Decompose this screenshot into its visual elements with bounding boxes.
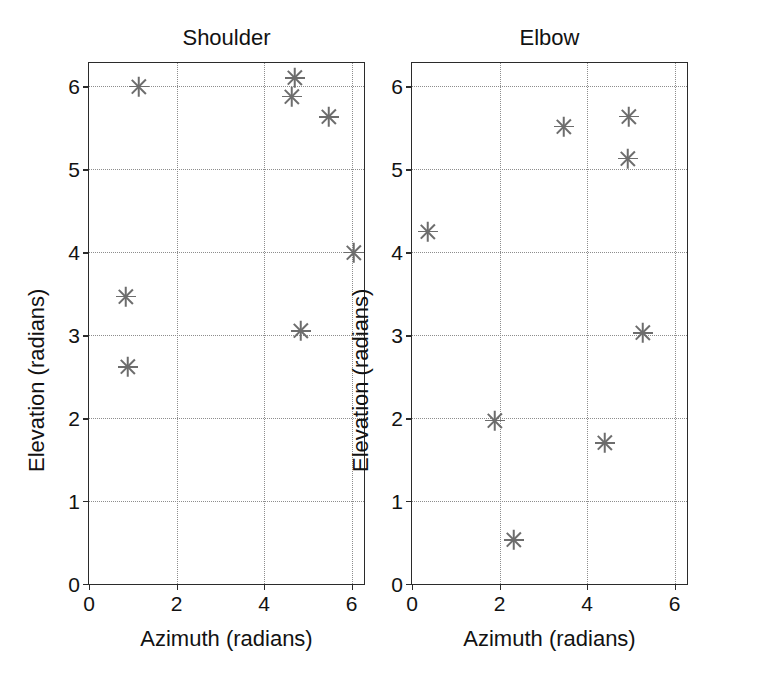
data-point-marker	[117, 356, 139, 378]
y-tick-label: 1	[68, 491, 80, 512]
y-tick-label: 3	[391, 325, 403, 346]
gridline-vertical	[500, 63, 501, 584]
data-point-marker	[128, 75, 150, 97]
gridline-vertical	[675, 63, 676, 584]
y-tick-label: 1	[391, 491, 403, 512]
gridline-horizontal	[412, 418, 687, 419]
y-tick-label: 2	[68, 408, 80, 429]
y-tick-label: 5	[68, 159, 80, 180]
x-tick-label: 4	[258, 593, 270, 614]
x-tick	[412, 584, 413, 590]
gridline-horizontal	[412, 86, 687, 87]
data-point-marker	[618, 105, 640, 127]
y-tick-label: 3	[68, 325, 80, 346]
x-tick	[675, 584, 676, 590]
x-tick	[500, 584, 501, 590]
x-tick-label: 6	[669, 593, 681, 614]
xaxis-label-shoulder: Azimuth (radians)	[89, 628, 364, 650]
panel-shoulder: Shoulder Azimuth (radians) 01234560246 E…	[0, 0, 387, 682]
x-tick	[587, 584, 588, 590]
y-tick-label: 6	[391, 76, 403, 97]
y-tick-label: 0	[68, 574, 80, 595]
x-tick	[89, 584, 90, 590]
plot-title-shoulder: Shoulder	[89, 27, 364, 49]
data-point-marker	[617, 148, 639, 170]
y-tick	[83, 418, 89, 419]
y-tick	[83, 169, 89, 170]
x-tick	[352, 584, 353, 590]
y-tick	[406, 335, 412, 336]
x-tick	[177, 584, 178, 590]
data-point-marker	[553, 115, 575, 137]
x-tick	[264, 584, 265, 590]
data-point-marker	[503, 529, 525, 551]
y-tick	[406, 501, 412, 502]
x-tick-label: 2	[494, 593, 506, 614]
gridline-horizontal	[89, 169, 364, 170]
gridline-horizontal	[412, 169, 687, 170]
y-tick	[406, 169, 412, 170]
data-point-marker	[484, 410, 506, 432]
x-tick-label: 4	[581, 593, 593, 614]
data-point-marker	[318, 106, 340, 128]
y-tick	[406, 86, 412, 87]
plot-title-elbow: Elbow	[412, 27, 687, 49]
y-tick-label: 5	[391, 159, 403, 180]
y-tick-label: 4	[391, 242, 403, 263]
panel-elbow: Elbow Azimuth (radians) 01234560246 Elev…	[387, 0, 773, 682]
y-tick	[83, 86, 89, 87]
y-tick	[406, 252, 412, 253]
x-tick-label: 0	[406, 593, 418, 614]
xaxis-label-elbow: Azimuth (radians)	[412, 628, 687, 650]
data-point-marker	[343, 241, 365, 263]
y-tick	[83, 501, 89, 502]
figure: Shoulder Azimuth (radians) 01234560246 E…	[0, 0, 773, 682]
gridline-horizontal	[412, 501, 687, 502]
gridline-horizontal	[89, 418, 364, 419]
gridline-horizontal	[89, 252, 364, 253]
y-tick-label: 6	[68, 76, 80, 97]
gridline-vertical	[177, 63, 178, 584]
gridline-horizontal	[89, 335, 364, 336]
x-tick-label: 2	[171, 593, 183, 614]
yaxis-label-shoulder: Elevation (radians)	[26, 289, 48, 472]
data-point-marker	[281, 85, 303, 107]
gridline-horizontal	[89, 501, 364, 502]
x-tick-label: 0	[83, 593, 95, 614]
plot-area-elbow: Elbow Azimuth (radians) 01234560246	[411, 62, 688, 585]
y-tick	[406, 418, 412, 419]
y-tick-label: 0	[391, 574, 403, 595]
gridline-vertical	[587, 63, 588, 584]
data-point-marker	[115, 285, 137, 307]
data-point-marker	[632, 322, 654, 344]
gridline-horizontal	[412, 252, 687, 253]
y-tick	[83, 335, 89, 336]
data-point-marker	[290, 320, 312, 342]
y-tick-label: 2	[391, 408, 403, 429]
gridline-vertical	[264, 63, 265, 584]
data-point-marker	[594, 432, 616, 454]
plot-area-shoulder: Shoulder Azimuth (radians) 01234560246	[88, 62, 365, 585]
y-tick	[83, 252, 89, 253]
x-tick-label: 6	[346, 593, 358, 614]
y-tick-label: 4	[68, 242, 80, 263]
yaxis-label-elbow: Elevation (radians)	[350, 289, 372, 472]
data-point-marker	[417, 221, 439, 243]
